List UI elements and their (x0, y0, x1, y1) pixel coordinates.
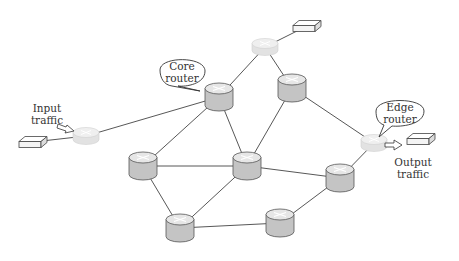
edge-router-label-line1: Edge (386, 101, 413, 113)
core-router-icon (233, 152, 261, 180)
host-device-icon (407, 134, 435, 145)
edge-router-icon (252, 39, 278, 56)
core-router-callout: Core router (160, 60, 205, 91)
input-arrow-icon (57, 124, 74, 133)
network-link (86, 97, 219, 136)
core-router-icon (266, 209, 294, 237)
edge-router-icon (361, 135, 387, 152)
output-traffic-annotation: Output traffic (385, 140, 432, 180)
output-traffic-label-line1: Output (394, 156, 432, 168)
edge-router-label-line2: router (383, 113, 418, 125)
input-traffic-label-line1: Input (33, 102, 62, 114)
output-arrow-icon (385, 140, 402, 150)
output-traffic-label-line2: traffic (397, 168, 429, 180)
core-router-icon (166, 214, 194, 242)
edge-router-icon (73, 128, 99, 145)
core-router-icon (205, 83, 233, 111)
host-device-icon (19, 137, 47, 148)
network-diagram: Core router Edge router Input traffic Ou… (0, 0, 459, 261)
core-router-label-line2: router (165, 72, 200, 84)
input-traffic-annotation: Input traffic (31, 102, 74, 133)
host-device-icon (293, 21, 321, 32)
core-router-icon (278, 74, 306, 102)
core-router-label-line1: Core (169, 60, 195, 72)
core-router-icon (326, 164, 354, 192)
network-nodes (19, 21, 435, 243)
edge-router-callout: Edge router (376, 101, 424, 138)
core-router-icon (129, 152, 157, 180)
network-link (180, 223, 280, 228)
network-links (33, 26, 374, 228)
